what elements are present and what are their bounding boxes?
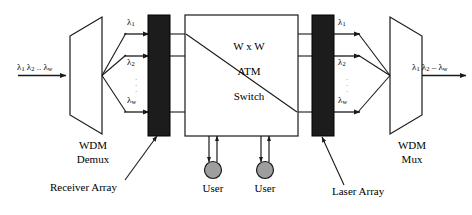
channel-label-right-lambdaw: λw bbox=[338, 96, 347, 106]
diagram-canvas: λ1 λ2 .. λw λ1 λ2 – λw λ1 λ2 λw ... λ1 λ… bbox=[0, 0, 472, 215]
atm-switch-label-line2: ATM bbox=[219, 66, 279, 78]
laser-array-label: Laser Array bbox=[332, 186, 384, 198]
laser-array-callout-leader bbox=[322, 137, 344, 185]
receiver-array-label: Receiver Array bbox=[50, 182, 117, 194]
receiver-to-switch-links bbox=[170, 34, 185, 112]
wdm-demux-label-line1: WDM bbox=[63, 140, 123, 152]
laser-array-block[interactable] bbox=[312, 15, 334, 136]
channel-label-left-lambdaw: λw bbox=[127, 96, 136, 106]
channel-label-right-lambda2: λ2 bbox=[338, 58, 346, 68]
user-1-label: User bbox=[193, 183, 233, 195]
vertical-ellipsis-icon-right: ... bbox=[344, 74, 350, 92]
channel-label-left-lambda1: λ1 bbox=[127, 18, 135, 28]
vertical-ellipsis-icon-left: ... bbox=[133, 74, 139, 92]
user-1-link bbox=[205, 136, 222, 179]
receiver-array-block[interactable] bbox=[148, 15, 170, 136]
user-2-label: User bbox=[245, 183, 285, 195]
user-2-link bbox=[257, 136, 274, 179]
wdm-demux-label-line2: Demux bbox=[63, 154, 123, 166]
input-wavelengths-label: λ1 λ2 .. λw bbox=[17, 63, 53, 73]
wdm-mux-label-line1: WDM bbox=[382, 140, 442, 152]
channel-label-right-lambda1: λ1 bbox=[338, 18, 346, 28]
channel-label-left-lambda2: λ2 bbox=[127, 58, 135, 68]
atm-switch-label-line3: Switch bbox=[219, 91, 279, 103]
wdm-demux-shape bbox=[70, 17, 126, 134]
receiver-array-callout-leader bbox=[125, 136, 157, 180]
switch-to-laser-links bbox=[298, 34, 313, 112]
atm-switch-label-line1: W x W bbox=[219, 41, 279, 53]
wdm-mux-shape bbox=[358, 17, 422, 134]
output-wavelengths-label: λ1 λ2 – λw bbox=[412, 63, 448, 73]
wdm-mux-label-line2: Mux bbox=[382, 154, 442, 166]
